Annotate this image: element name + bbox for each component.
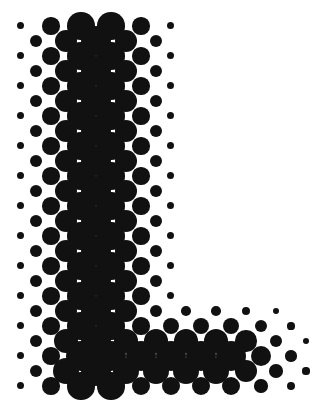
halftone-dot (150, 155, 162, 167)
halftone-dot (150, 275, 162, 287)
halftone-dot (150, 65, 162, 77)
halftone-dot (30, 215, 42, 227)
halftone-dot (30, 335, 42, 347)
halftone-dot (97, 372, 124, 399)
halftone-dot (211, 306, 221, 316)
halftone-dot (222, 377, 241, 396)
halftone-dot (167, 82, 174, 89)
halftone-dot (235, 360, 258, 383)
halftone-dot (42, 107, 59, 124)
halftone-dot (167, 232, 174, 239)
halftone-dot (223, 318, 240, 335)
halftone-dot (17, 262, 24, 269)
halftone-dot (167, 22, 174, 29)
halftone-dot (167, 202, 174, 209)
halftone-dot (150, 185, 162, 197)
halftone-dot (181, 306, 191, 316)
halftone-dot (17, 292, 24, 299)
halftone-dot (132, 77, 149, 94)
halftone-dot (30, 185, 42, 197)
halftone-dot (17, 232, 24, 239)
halftone-dot (42, 227, 59, 244)
halftone-dot (30, 65, 42, 77)
halftone-dot (132, 167, 149, 184)
halftone-dot (150, 125, 162, 137)
halftone-dot (132, 47, 149, 64)
halftone-dot (30, 365, 42, 377)
halftone-dot (67, 372, 94, 399)
halftone-dot (17, 142, 24, 149)
halftone-dot (17, 172, 24, 179)
halftone-dot (273, 308, 279, 314)
halftone-dot (162, 377, 181, 396)
halftone-dot (30, 275, 42, 287)
halftone-letter-l: Halftone letter L (0, 0, 315, 417)
halftone-dot (150, 95, 162, 107)
halftone-dot (167, 262, 174, 269)
halftone-dot (167, 172, 174, 179)
halftone-dot (150, 35, 162, 47)
halftone-dot (42, 197, 59, 214)
halftone-dot (30, 305, 42, 317)
halftone-dot (42, 17, 59, 34)
halftone-dot (167, 112, 174, 119)
halftone-dot (132, 107, 149, 124)
halftone-dot (150, 305, 162, 317)
halftone-dot (302, 367, 309, 374)
halftone-dot (17, 112, 24, 119)
halftone-dot (132, 197, 149, 214)
halftone-dot (42, 77, 59, 94)
halftone-dot (42, 47, 59, 64)
halftone-dot (30, 155, 42, 167)
halftone-dot (17, 382, 24, 389)
halftone-dot (42, 257, 59, 274)
halftone-dot (132, 377, 151, 396)
halftone-dot (30, 245, 42, 257)
halftone-dot (287, 322, 294, 329)
halftone-dot (132, 257, 149, 274)
halftone-dot (42, 377, 59, 394)
halftone-dot (132, 227, 149, 244)
halftone-dot (132, 17, 149, 34)
halftone-dot (242, 307, 251, 316)
halftone-dot (17, 352, 24, 359)
halftone-dot (17, 22, 24, 29)
halftone-dot (30, 125, 42, 137)
halftone-dot (30, 95, 42, 107)
halftone-dot (270, 335, 283, 348)
halftone-dot (42, 167, 59, 184)
halftone-dot (192, 377, 211, 396)
halftone-dot (150, 245, 162, 257)
halftone-dot (287, 382, 295, 390)
halftone-dot (303, 338, 310, 345)
halftone-dot (17, 52, 24, 59)
halftone-dot (167, 292, 174, 299)
halftone-dot (17, 322, 24, 329)
halftone-dot (167, 142, 174, 149)
halftone-dot (42, 287, 59, 304)
halftone-dot (30, 35, 42, 47)
halftone-dot (269, 364, 283, 378)
halftone-dot (132, 137, 149, 154)
halftone-dot (17, 202, 24, 209)
halftone-dot (255, 320, 267, 332)
halftone-dot (150, 215, 162, 227)
halftone-dot (167, 52, 174, 59)
halftone-dot (132, 287, 149, 304)
halftone-dot (254, 379, 267, 392)
halftone-dot (285, 350, 296, 361)
halftone-dot (42, 137, 59, 154)
halftone-dot (17, 82, 24, 89)
